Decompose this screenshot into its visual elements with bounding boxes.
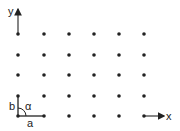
lattice-point (142, 32, 146, 36)
a-label: a (27, 117, 34, 129)
lattice-point (16, 94, 20, 98)
lattice-point (67, 114, 71, 118)
lattice-point (117, 32, 121, 36)
lattice-point (92, 73, 96, 77)
lattice-point (142, 94, 146, 98)
lattice-point (92, 53, 96, 57)
lattice-point (92, 94, 96, 98)
lattice-point (92, 32, 96, 36)
lattice-point (142, 53, 146, 57)
lattice-diagram: y x b a α (0, 0, 180, 131)
y-axis-label: y (8, 5, 14, 17)
lattice-point (42, 94, 46, 98)
x-axis-label: x (166, 110, 172, 122)
alpha-label: α (25, 100, 32, 112)
b-label: b (9, 100, 15, 112)
lattice-point (92, 114, 96, 118)
lattice-point (67, 94, 71, 98)
lattice-point (117, 73, 121, 77)
lattice-point (42, 32, 46, 36)
lattice-point (16, 114, 20, 118)
lattice-point (117, 114, 121, 118)
lattice-point (16, 73, 20, 77)
lattice-point (42, 73, 46, 77)
lattice-point (67, 53, 71, 57)
lattice-point (42, 53, 46, 57)
lattice-point (67, 32, 71, 36)
lattice-point (142, 114, 146, 118)
lattice-point (16, 32, 20, 36)
lattice-point (67, 73, 71, 77)
lattice-point (42, 114, 46, 118)
lattice-point (117, 53, 121, 57)
lattice-point (142, 73, 146, 77)
lattice-points (16, 32, 146, 118)
lattice-point (16, 53, 20, 57)
lattice-point (117, 94, 121, 98)
